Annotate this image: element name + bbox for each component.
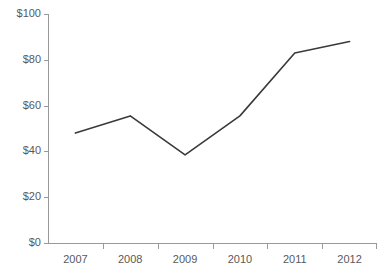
x-tick-label: 2009 xyxy=(158,254,213,265)
x-tick-label: 2008 xyxy=(103,254,158,265)
line-chart: $0$20$40$60$80$100 200720082009201020112… xyxy=(0,0,388,279)
x-tick-label: 2011 xyxy=(267,254,322,265)
y-tick-label: $20 xyxy=(23,191,41,202)
y-tick-label: $80 xyxy=(23,54,41,65)
y-tick-label: $0 xyxy=(29,237,41,248)
chart-canvas xyxy=(0,0,388,279)
chart-axes xyxy=(49,14,378,244)
series-line-0 xyxy=(75,41,349,154)
x-tick-label: 2012 xyxy=(322,254,377,265)
axis-tick-marks xyxy=(44,15,377,249)
x-tick-label: 2007 xyxy=(48,254,103,265)
y-tick-label: $60 xyxy=(23,100,41,111)
y-tick-label: $40 xyxy=(23,145,41,156)
x-tick-label: 2010 xyxy=(213,254,268,265)
data-series-group xyxy=(75,41,349,154)
y-tick-label: $100 xyxy=(17,8,41,19)
